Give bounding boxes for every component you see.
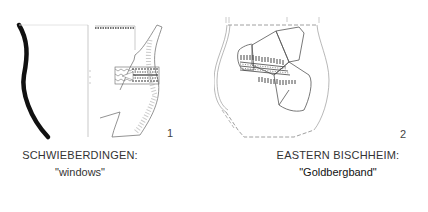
caption-title: SCHWIEBERDINGEN: <box>10 147 150 164</box>
figure-1-caption: SCHWIEBERDINGEN: "windows" <box>10 147 150 181</box>
figure-1-schwieberdingen-vessel: 1 <box>0 0 214 150</box>
vessel-2-drawing <box>214 0 428 150</box>
vessel-1-drawing <box>0 0 214 150</box>
caption-subtitle: "windows" <box>10 164 150 181</box>
figure-number: 1 <box>167 127 173 139</box>
caption-subtitle: "Goldbergband" <box>268 164 408 181</box>
figure-2-eastern-bischheim-vessel: 2 <box>214 0 428 150</box>
figure-number: 2 <box>400 128 406 140</box>
figure-2-caption: EASTERN BISCHHEIM: "Goldbergband" <box>268 147 408 181</box>
windows-band-decoration <box>115 67 159 84</box>
caption-title: EASTERN BISCHHEIM: <box>268 147 408 164</box>
